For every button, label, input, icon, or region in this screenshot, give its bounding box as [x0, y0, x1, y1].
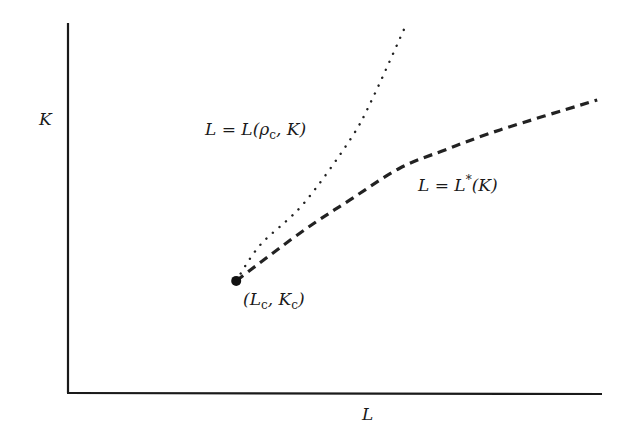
x-axis: [67, 393, 602, 394]
critical-point-label: (Lc, Kc): [243, 289, 305, 312]
dashed-label-fn: L: [453, 175, 465, 195]
dotted-curve-label: L = L(ρc, K): [204, 119, 306, 142]
phase-diagram: K L L = L(ρc, K) L = L*(K) (Lc, Kc): [0, 0, 634, 444]
dashed-label-eq: =: [429, 175, 454, 195]
dotted-label-rho: ρ: [258, 119, 269, 139]
dotted-curve-l-rho-c: [236, 25, 406, 281]
point-label-close: ): [297, 289, 305, 309]
dotted-label-eq: =: [216, 119, 241, 139]
dashed-label-rest: (K): [472, 175, 498, 195]
dotted-label-lhs: L: [204, 119, 216, 139]
point-label-mid: , K: [268, 289, 293, 309]
point-label-open: (L: [243, 289, 261, 309]
curves-group: [231, 25, 597, 286]
y-axis-label: K: [38, 109, 53, 129]
dotted-label-fn: L(: [240, 119, 259, 139]
x-axis-label: L: [361, 404, 373, 424]
dotted-label-rest: , K): [276, 119, 306, 139]
dashed-curve-label: L = L*(K): [417, 173, 498, 195]
dashed-label-lhs: L: [417, 175, 429, 195]
critical-point-marker: [231, 276, 241, 286]
